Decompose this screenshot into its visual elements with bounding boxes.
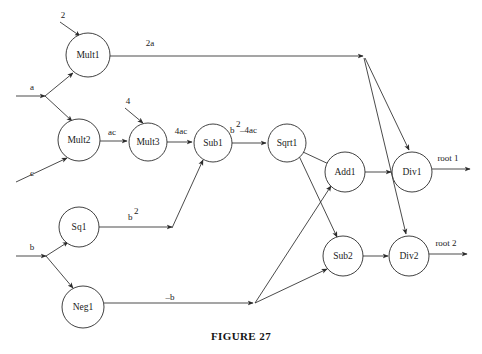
node-mult1[interactable]: Mult1 <box>66 33 110 77</box>
edge-const4-mult3 <box>125 108 143 123</box>
figure-page: Mult1 Mult2 Mult3 Sub1 Sqrt1 Add1 <box>0 0 482 354</box>
node-mult3[interactable]: Mult3 <box>129 123 167 161</box>
node-add1[interactable]: Add1 <box>325 152 365 192</box>
edge-label-2a: 2a <box>146 38 155 48</box>
edge-label-b-squared: b 2 <box>128 206 139 222</box>
node-div2[interactable]: Div2 <box>389 236 429 276</box>
node-label: Mult3 <box>136 137 159 147</box>
node-sq1[interactable]: Sq1 <box>59 207 99 247</box>
edge-const2-mult1 <box>60 22 80 36</box>
edge-labels: 2a ac 4ac b 2 –4ac b 2 –b <box>108 38 257 302</box>
input-label-const2: 2 <box>61 10 66 20</box>
edge-label-discriminant: b 2 –4ac <box>230 119 257 135</box>
bsquared-superscript: 2 <box>134 206 139 216</box>
input-label-const4: 4 <box>126 96 131 106</box>
node-sub2[interactable]: Sub2 <box>323 236 363 276</box>
output-label-root2: root 2 <box>435 238 456 248</box>
node-label: Div2 <box>400 251 419 261</box>
node-label: Mult2 <box>67 135 90 145</box>
edge-label-neg-b: –b <box>165 292 176 302</box>
node-mult2[interactable]: Mult2 <box>58 119 100 161</box>
dataflow-diagram: Mult1 Mult2 Mult3 Sub1 Sqrt1 Add1 <box>0 0 482 354</box>
edge-2a-div2 <box>364 58 406 234</box>
edge-bsq-sub1 <box>172 160 203 228</box>
figure-caption: FIGURE 27 <box>0 330 482 342</box>
edge-a-mult1 <box>45 73 73 96</box>
output-labels: root 1 root 2 <box>435 153 458 248</box>
node-label: Add1 <box>334 167 355 177</box>
input-label-b: b <box>30 242 35 252</box>
input-label-c: c <box>30 168 34 178</box>
edge-label-ac: ac <box>108 127 116 137</box>
node-label: Sub2 <box>333 251 353 261</box>
nodes: Mult1 Mult2 Mult3 Sub1 Sqrt1 Add1 <box>58 33 432 328</box>
node-neg1[interactable]: Neg1 <box>62 286 104 328</box>
edge-2a-div1 <box>365 58 409 150</box>
bsquared-base: b <box>128 212 133 222</box>
edge-label-4ac: 4ac <box>175 126 188 136</box>
discriminant-tail: –4ac <box>239 125 257 135</box>
edge-c-mult2 <box>16 158 67 182</box>
node-label: Div1 <box>403 167 422 177</box>
discriminant-base: b <box>230 125 235 135</box>
node-label: Sub1 <box>203 138 223 148</box>
node-div1[interactable]: Div1 <box>392 152 432 192</box>
output-label-root1: root 1 <box>437 153 458 163</box>
edge-a-mult2 <box>45 96 72 121</box>
node-sub1[interactable]: Sub1 <box>194 124 232 162</box>
input-label-a: a <box>30 82 34 92</box>
edge-b-sq1 <box>46 242 68 256</box>
node-label: Sq1 <box>72 222 87 232</box>
node-label: Neg1 <box>73 302 94 312</box>
node-sqrt1[interactable]: Sqrt1 <box>268 124 306 162</box>
edge-b-neg1 <box>46 256 73 288</box>
node-label: Mult1 <box>76 50 99 60</box>
node-label: Sqrt1 <box>277 138 298 148</box>
